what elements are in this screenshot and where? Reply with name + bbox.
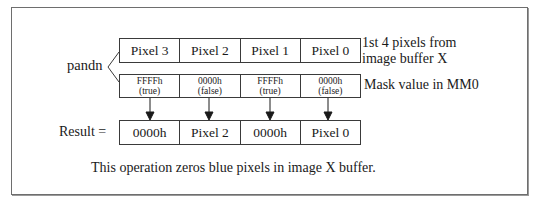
source-pixels-row: Pixel 3 Pixel 2 Pixel 1 Pixel 0 bbox=[119, 38, 361, 63]
mask-note: (true) bbox=[139, 86, 160, 96]
mask-cell: FFFFh (true) bbox=[120, 75, 180, 97]
source-caption: 1st 4 pixels from image buffer X bbox=[362, 35, 457, 67]
mask-value: FFFFh bbox=[137, 76, 163, 86]
result-row: 0000h Pixel 2 0000h Pixel 0 bbox=[119, 120, 361, 145]
source-caption-line1: 1st 4 pixels from bbox=[362, 35, 457, 51]
source-caption-line2: image buffer X bbox=[362, 51, 457, 67]
mask-caption: Mask value in MM0 bbox=[364, 77, 479, 93]
result-label: Result = bbox=[59, 124, 106, 140]
mask-note: (false) bbox=[318, 86, 342, 96]
operation-label: pandn bbox=[67, 57, 102, 74]
result-cell: 0000h bbox=[241, 121, 301, 144]
connector-lines bbox=[0, 0, 543, 214]
mask-cell: FFFFh (true) bbox=[241, 75, 301, 97]
result-cell: Pixel 0 bbox=[301, 121, 360, 144]
result-cell: Pixel 2 bbox=[180, 121, 240, 144]
mask-value: 0000h bbox=[198, 76, 222, 86]
mask-note: (false) bbox=[198, 86, 222, 96]
source-cell: Pixel 1 bbox=[241, 39, 301, 62]
footnote: This operation zeros blue pixels in imag… bbox=[91, 160, 376, 176]
mask-value: FFFFh bbox=[257, 76, 283, 86]
mask-value: 0000h bbox=[319, 76, 343, 86]
source-cell: Pixel 3 bbox=[120, 39, 180, 62]
mask-note: (true) bbox=[260, 86, 281, 96]
source-cell: Pixel 0 bbox=[301, 39, 360, 62]
pandn-bracket bbox=[108, 52, 119, 82]
mask-cell: 0000h (false) bbox=[301, 75, 360, 97]
result-cell: 0000h bbox=[120, 121, 180, 144]
source-cell: Pixel 2 bbox=[180, 39, 240, 62]
mask-row: FFFFh (true) 0000h (false) FFFFh (true) … bbox=[119, 74, 361, 98]
mask-cell: 0000h (false) bbox=[180, 75, 240, 97]
